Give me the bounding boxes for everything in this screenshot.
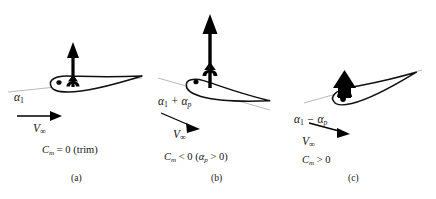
- cm-subscript: m: [171, 156, 176, 164]
- panel-a: α1 V∞ Cm = 0 (trim) (a): [0, 0, 145, 199]
- lift-arrow: [203, 14, 218, 88]
- cm-alpha-subscript: p: [204, 156, 208, 164]
- cm-tail: > 0): [208, 151, 228, 162]
- alpha-subscript: 1: [20, 96, 24, 105]
- alpha-subscript: 1: [300, 118, 304, 127]
- airfoil-outline: [50, 76, 142, 92]
- freestream-label-a: V∞: [33, 123, 46, 135]
- freestream-label-c: V∞: [302, 136, 315, 148]
- cm-symbol: C: [42, 144, 49, 155]
- alpha-symbol-2: α: [181, 95, 187, 107]
- panel-sub-label-c: (c): [348, 174, 359, 184]
- cm-expression: < 0 (: [176, 151, 199, 162]
- v-symbol: V: [33, 122, 40, 134]
- moment-condition-c: Cm > 0: [302, 155, 331, 166]
- infinity-subscript: ∞: [40, 127, 46, 136]
- figure-canvas: α1 V∞ Cm = 0 (trim) (a): [0, 0, 436, 199]
- panel-c-graphics: [282, 0, 427, 199]
- panel-sub-label-b: (b): [211, 174, 222, 184]
- infinity-subscript: ∞: [180, 133, 186, 142]
- alpha-label-c: α1 − αp: [294, 114, 327, 126]
- minus-operator: −: [304, 113, 318, 125]
- cm-expression: > 0: [314, 154, 330, 165]
- cm-subscript: m: [49, 149, 54, 157]
- freestream-label-b: V∞: [173, 129, 186, 141]
- cm-subscript: m: [309, 159, 314, 167]
- moment-condition-a: Cm = 0 (trim): [42, 145, 98, 156]
- alpha-subscript-2: p: [188, 100, 192, 109]
- v-symbol: V: [173, 128, 180, 140]
- panel-sub-label-a: (a): [71, 174, 82, 184]
- alpha-subscript-2: p: [324, 118, 328, 127]
- panel-c: α1 − αp V∞ Cm > 0 (c): [282, 0, 427, 199]
- cm-expression: = 0 (trim): [54, 144, 98, 155]
- quarter-chord-dot: [56, 80, 61, 85]
- infinity-subscript: ∞: [309, 140, 315, 149]
- plus-operator: +: [168, 95, 182, 107]
- v-symbol: V: [302, 135, 309, 147]
- alpha-subscript: 1: [164, 100, 168, 109]
- cm-symbol: C: [164, 151, 171, 162]
- cm-symbol: C: [302, 154, 309, 165]
- freestream-arrow: [17, 111, 62, 121]
- alpha-label-a: α1: [14, 92, 24, 104]
- moment-condition-b: Cm < 0 (αp > 0): [164, 152, 228, 163]
- alpha-label-b: α1 + αp: [158, 96, 191, 108]
- quarter-chord-dot: [193, 80, 198, 85]
- panel-b: α1 + αp V∞ Cm < 0 (αp > 0) (b): [140, 0, 285, 199]
- alpha-symbol-2: α: [317, 113, 323, 125]
